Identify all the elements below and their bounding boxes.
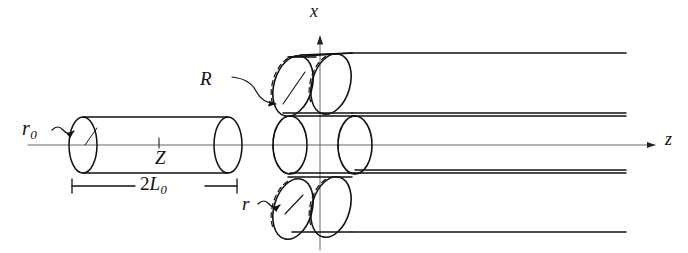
trailing-lines (352, 53, 626, 232)
r-leader-line (258, 201, 280, 207)
label-x-axis: x (310, 2, 318, 20)
label-R: R (200, 69, 212, 88)
r-radius-stroke (285, 195, 303, 214)
upper-near-cap (266, 51, 320, 121)
upper-cylinder-row (266, 49, 358, 121)
label-2L0: 2L0 (140, 174, 167, 196)
r0-radius-stroke (85, 128, 97, 145)
label-Z: Z (155, 148, 166, 167)
R-radius-stroke (283, 72, 305, 104)
diagram-svg (0, 0, 688, 253)
label-z-axis: z (665, 130, 672, 148)
label-r: r (242, 194, 249, 213)
R-leader-line (232, 77, 276, 104)
figure-canvas: r0 Z 2L0 R r x z (0, 0, 688, 253)
lower-near-cap (266, 174, 320, 244)
label-r0: r0 (22, 118, 37, 141)
lower-cylinder-row (266, 172, 358, 244)
